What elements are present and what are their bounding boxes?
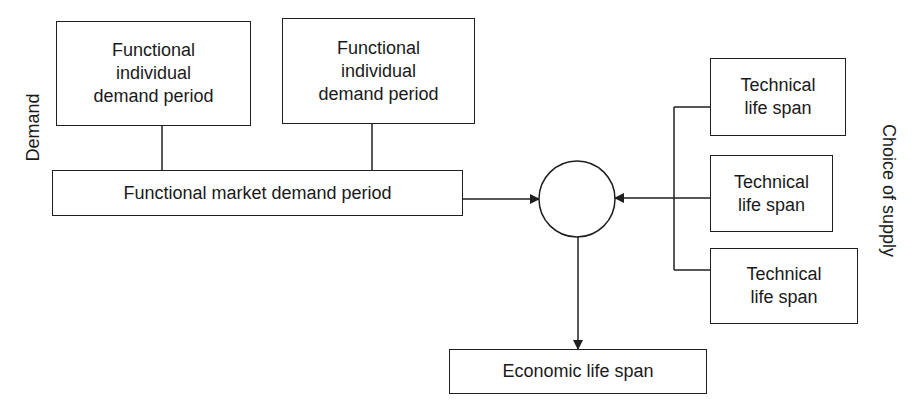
- demand-box-2: Functional individual demand period: [282, 18, 475, 124]
- junction-circle: [539, 161, 615, 237]
- economic-life-span-label: Economic life span: [502, 360, 653, 383]
- supply-box-1: Technical life span: [710, 58, 846, 136]
- supply-box-3: Technical life span: [710, 248, 858, 324]
- economic-life-span-box: Economic life span: [449, 349, 707, 394]
- demand-box-2-label: Functional individual demand period: [318, 37, 438, 106]
- demand-box-1-label: Functional individual demand period: [93, 39, 213, 108]
- supply-box-2: Technical life span: [710, 155, 833, 232]
- supply-box-3-label: Technical life span: [746, 263, 821, 309]
- demand-side-label: Demand: [23, 88, 44, 168]
- demand-box-1: Functional individual demand period: [56, 21, 251, 126]
- market-demand-box: Functional market demand period: [52, 170, 463, 216]
- supply-side-label: Choice of supply: [878, 116, 899, 266]
- supply-box-2-label: Technical life span: [734, 171, 809, 217]
- market-demand-label: Functional market demand period: [123, 182, 391, 205]
- supply-box-1-label: Technical life span: [740, 74, 815, 120]
